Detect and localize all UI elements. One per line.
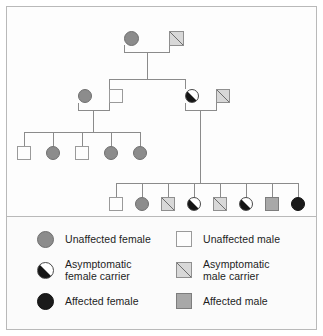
- pedigree-node-II-4[interactable]: [216, 89, 230, 103]
- sib-drop-III-8: [168, 183, 169, 197]
- unaffected-female-icon: [37, 231, 54, 248]
- affected-female-icon: [37, 293, 54, 310]
- sib-drop-III-1: [24, 132, 25, 146]
- pedigree-node-II-3[interactable]: [185, 89, 199, 103]
- pedigree-node-III-13[interactable]: [291, 197, 305, 211]
- sib-drop-III-9: [194, 183, 195, 197]
- legend-item-asymptomatic-female-carrier: Asymptomatic female carrier: [37, 258, 132, 282]
- carrier-diagonal-icon: [162, 198, 174, 210]
- pedigree-node-III-5[interactable]: [133, 146, 147, 160]
- descent-line-II-right: [200, 110, 201, 183]
- legend-panel: Unaffected female Asymptomatic female ca…: [7, 217, 316, 329]
- legend-label-unaffected-female: Unaffected female: [65, 233, 151, 245]
- legend-item-unaffected-female: Unaffected female: [37, 231, 151, 248]
- legend-label-unaffected-male: Unaffected male: [203, 233, 280, 245]
- mating-line-II-left: [78, 110, 110, 111]
- carrier-diagonal-icon: [214, 198, 226, 210]
- sib-drop-III-7: [142, 183, 143, 197]
- sib-drop-III-13: [298, 183, 299, 197]
- sib-drop-II-3: [185, 79, 186, 89]
- sib-drop-III-5: [140, 132, 141, 146]
- sib-drop-III-4: [111, 132, 112, 146]
- carrier-diagonal-icon: [177, 263, 191, 277]
- pedigree-node-I-1[interactable]: [124, 31, 139, 46]
- pedigree-node-III-8[interactable]: [161, 197, 175, 211]
- pedigree-node-III-11[interactable]: [239, 197, 253, 211]
- pedigree-node-I-2[interactable]: [169, 31, 184, 46]
- mating-line-II-right: [185, 110, 217, 111]
- unaffected-male-icon: [176, 231, 192, 247]
- sib-drop-II-2: [109, 79, 110, 89]
- sib-drop-III-6: [116, 183, 117, 197]
- pedigree-node-III-1[interactable]: [17, 146, 31, 160]
- pedigree-node-III-12[interactable]: [265, 197, 279, 211]
- sib-drop-III-11: [246, 183, 247, 197]
- carrier-diagonal-icon: [217, 90, 229, 102]
- asymptomatic-female-carrier-icon: [37, 262, 54, 279]
- pedigree-figure: Unaffected female Asymptomatic female ca…: [0, 0, 323, 336]
- pedigree-node-III-2[interactable]: [46, 146, 60, 160]
- sib-drop-III-3: [82, 132, 83, 146]
- asymptomatic-male-carrier-icon: [176, 262, 192, 278]
- sib-drop-III-2: [53, 132, 54, 146]
- pedigree-node-III-6[interactable]: [109, 197, 123, 211]
- pedigree-node-II-1[interactable]: [78, 89, 92, 103]
- pedigree-node-II-2[interactable]: [109, 89, 123, 103]
- descent-line-I: [147, 52, 148, 79]
- legend-item-asymptomatic-male-carrier: Asymptomatic male carrier: [176, 258, 270, 282]
- affected-male-icon: [176, 293, 192, 309]
- pedigree-node-III-9[interactable]: [187, 197, 201, 211]
- legend-label-affected-male: Affected male: [203, 295, 268, 307]
- descent-line-II-left: [93, 110, 94, 132]
- sib-drop-III-12: [272, 183, 273, 197]
- legend-label-asymptomatic-male-carrier: Asymptomatic male carrier: [203, 258, 270, 282]
- pedigree-node-III-4[interactable]: [104, 146, 118, 160]
- legend-item-affected-female: Affected female: [37, 293, 139, 310]
- legend-item-unaffected-male: Unaffected male: [176, 231, 280, 247]
- legend-item-affected-male: Affected male: [176, 293, 268, 309]
- pedigree-node-III-3[interactable]: [75, 146, 89, 160]
- pedigree-panel: [7, 7, 316, 216]
- legend-label-affected-female: Affected female: [65, 295, 139, 307]
- carrier-diagonal-icon: [170, 32, 183, 45]
- pedigree-node-III-10[interactable]: [213, 197, 227, 211]
- sib-drop-III-10: [220, 183, 221, 197]
- sibship-bar-II: [109, 79, 186, 80]
- pedigree-node-III-7[interactable]: [135, 197, 149, 211]
- legend-label-asymptomatic-female-carrier: Asymptomatic female carrier: [65, 258, 132, 282]
